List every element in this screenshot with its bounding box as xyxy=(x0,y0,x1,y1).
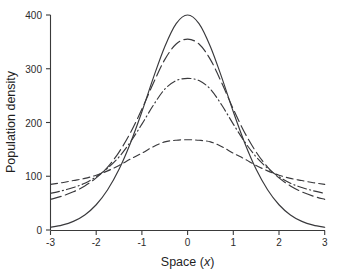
y-tick-label-400: 400 xyxy=(25,10,42,21)
x-tick-label-2: 2 xyxy=(276,237,282,248)
x-tick-label-neg2: -2 xyxy=(92,237,101,248)
x-axis-title-main: Space ( xyxy=(161,255,205,269)
x-ticks-group xyxy=(51,231,325,236)
curves-group xyxy=(51,15,325,227)
x-tick-labels-group: -3 -2 -1 0 1 2 3 xyxy=(46,237,328,248)
curve-line-1 xyxy=(51,15,325,227)
x-axis-title-close: ) xyxy=(210,255,214,269)
x-tick-label-1: 1 xyxy=(231,237,237,248)
chart-figure: 400 300 200 100 0 -3 -2 -1 0 1 2 3 xyxy=(0,0,337,278)
x-axis-title: Space (x) xyxy=(161,255,215,269)
y-tick-label-0: 0 xyxy=(36,225,42,236)
y-tick-labels-group: 400 300 200 100 0 xyxy=(25,10,42,236)
population-density-chart: 400 300 200 100 0 -3 -2 -1 0 1 2 3 xyxy=(0,0,337,278)
curve-line-3 xyxy=(51,78,325,193)
y-tick-label-300: 300 xyxy=(25,64,42,75)
y-tick-label-100: 100 xyxy=(25,171,42,182)
x-tick-label-neg1: -1 xyxy=(137,237,146,248)
x-tick-label-3: 3 xyxy=(322,237,328,248)
y-axis-title: Population density xyxy=(4,70,18,173)
curve-line-4 xyxy=(51,140,325,185)
axes-group xyxy=(51,15,326,231)
y-ticks-group xyxy=(46,15,51,230)
curve-line-2 xyxy=(51,39,325,199)
x-tick-label-neg3: -3 xyxy=(46,237,55,248)
y-tick-label-200: 200 xyxy=(25,118,42,129)
x-tick-label-0: 0 xyxy=(185,237,191,248)
